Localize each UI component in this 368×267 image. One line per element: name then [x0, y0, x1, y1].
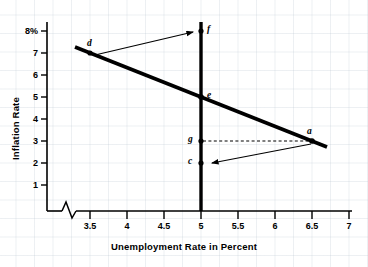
point-label-d: d — [87, 38, 92, 48]
phillips-curve-chart: 8% 7 6 5 4 3 2 1 3.5 4 4.5 5 5.5 6 6.5 7… — [0, 0, 368, 267]
x-tick-label-5: 5 — [198, 221, 203, 231]
point-label-g: g — [188, 134, 193, 144]
y-tick-label-8: 8% — [10, 26, 38, 36]
x-tick-label-3-5: 3.5 — [84, 221, 97, 231]
data-point-c — [198, 160, 203, 165]
x-axis-break-symbol — [62, 202, 76, 218]
point-label-c: c — [188, 156, 192, 166]
data-point-d — [87, 50, 92, 55]
arrow-a-to-c — [212, 144, 311, 163]
y-axis-title: Inflation Rate — [10, 97, 21, 160]
data-point-f — [198, 28, 203, 33]
y-tick-label-7: 7 — [10, 48, 38, 58]
x-tick-label-6: 6 — [272, 221, 277, 231]
x-tick-label-6-5: 6.5 — [306, 221, 319, 231]
data-point-g — [198, 138, 203, 143]
y-tick-label-1: 1 — [10, 180, 38, 190]
data-point-e — [198, 94, 204, 100]
point-label-a: a — [307, 126, 312, 136]
x-tick-label-5-5: 5.5 — [232, 221, 245, 231]
y-axis-ticks — [41, 31, 47, 185]
point-label-f: f — [207, 24, 210, 34]
x-tick-label-7: 7 — [346, 221, 351, 231]
arrow-d-to-f — [95, 32, 193, 55]
y-tick-label-6: 6 — [10, 70, 38, 80]
x-tick-label-4-5: 4.5 — [158, 221, 171, 231]
x-tick-label-4: 4 — [124, 221, 129, 231]
x-axis-title: Unemployment Rate in Percent — [0, 241, 368, 252]
x-axis-ticks — [90, 211, 349, 219]
point-label-e: e — [207, 90, 211, 100]
data-point-a — [309, 138, 315, 144]
